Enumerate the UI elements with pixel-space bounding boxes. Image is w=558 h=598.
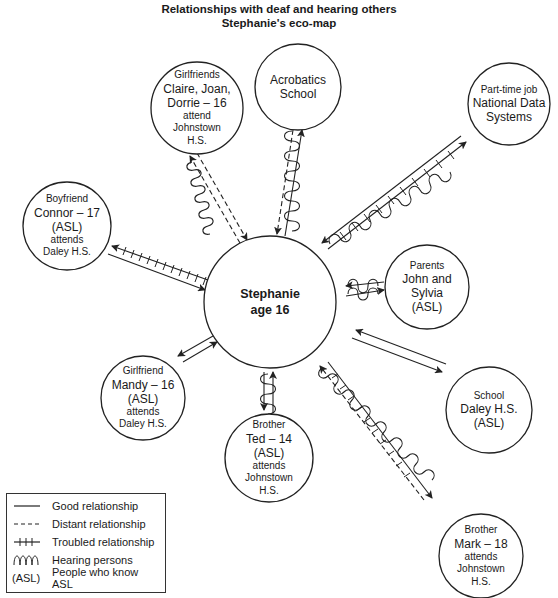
node-label: John and [402,272,451,286]
link-boyfriend [108,246,208,290]
legend-label: Distant relationship [52,518,146,530]
node-label: (ASL) [254,446,285,460]
link-parents [346,279,384,300]
node-label: Ted – 14 [246,432,292,446]
wave-icon [12,554,48,566]
node-label: (ASL) [52,220,83,234]
node-label: attends [465,551,498,564]
node-ted: Brother Ted – 14 (ASL) attends Johnstown… [225,414,313,502]
node-label: Johnstown [245,472,293,485]
asl-symbol: (ASL) [12,572,48,584]
node-label: School [280,87,317,101]
center-age: age 16 [251,302,290,318]
legend-item-troubled: Troubled relationship [12,533,160,551]
node-school: School Daley H.S. (ASL) [446,367,532,453]
node-label: attends [127,406,160,419]
node-label: H.S. [259,485,278,498]
node-label: Claire, Joan, [163,82,230,96]
node-label: H.S. [471,576,490,589]
node-girlfriends: Girlfriends Claire, Joan, Dorrie – 16 at… [151,62,243,154]
link-school [352,330,446,372]
node-label: Girlfriend [123,365,164,378]
node-label: (ASL) [412,300,443,314]
node-label: Daley H.S. [119,418,167,431]
center-node-stephanie: Stephanie age 16 [204,236,336,368]
node-label: Parents [410,260,444,273]
legend: Good relationship Distant relationship T… [6,493,166,593]
node-label: National Data [473,96,546,110]
node-label: Mandy – 16 [112,378,175,392]
node-label: Brother [465,524,498,537]
node-label: Daley H.S. [43,246,91,259]
node-label: Brother [253,419,286,432]
node-label: Mark – 18 [454,537,507,551]
node-mark: Brother Mark – 18 attends Johnstown H.S. [439,514,523,598]
node-label: Acrobatics [270,73,326,87]
legend-label: Good relationship [52,500,138,512]
node-label: Connor – 17 [34,206,100,220]
node-label: attend [183,110,211,123]
dashed-line-icon [12,518,48,530]
center-name: Stephanie [240,286,300,302]
legend-label: Troubled relationship [52,536,154,548]
legend-label: Hearing persons [52,554,133,566]
node-label: attends [51,234,84,247]
node-label: (ASL) [128,392,159,406]
legend-item-good: Good relationship [12,497,160,515]
node-label: Girlfriends [174,69,220,82]
node-label: Dorrie – 16 [167,96,226,110]
node-job: Part-time job National Data Systems [468,63,550,145]
legend-item-distant: Distant relationship [12,515,160,533]
node-label: Part-time job [481,84,538,97]
node-label: Sylvia [411,286,443,300]
legend-label: People who know ASL [52,566,160,590]
link-mark [319,362,434,500]
node-acrobatics: Acrobatics School [255,44,341,130]
link-acrobatics [277,130,302,236]
node-label: Systems [486,110,532,124]
node-label: (ASL) [474,416,505,430]
legend-item-asl: (ASL) People who know ASL [12,569,160,587]
link-mandy [178,336,217,362]
link-girlfriends [187,153,247,243]
node-boyfriend: Boyfriend Connor – 17 (ASL) attends Dale… [23,182,111,270]
solid-line-icon [12,500,48,512]
node-label: School [474,390,505,403]
node-label: H.S. [187,135,206,148]
link-job [322,136,466,249]
link-ted [261,372,276,414]
node-label: Johnstown [173,122,221,135]
node-label: Boyfriend [46,193,88,206]
hatched-line-icon [12,536,48,548]
node-label: Johnstown [457,563,505,576]
node-label: Daley H.S. [460,402,517,416]
node-label: attends [253,460,286,473]
node-parents: Parents John and Sylvia (ASL) [385,245,469,329]
node-mandy: Girlfriend Mandy – 16 (ASL) attends Dale… [101,356,185,440]
